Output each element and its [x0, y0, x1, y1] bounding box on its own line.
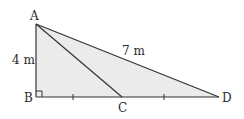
label-b: B — [24, 91, 33, 105]
measure-ab: 4 m — [12, 53, 35, 67]
label-a: A — [29, 9, 39, 23]
label-c: C — [118, 101, 127, 115]
triangle-diagram: A B C D 4 m 7 m — [0, 0, 244, 119]
label-d: D — [222, 91, 232, 105]
measure-ad: 7 m — [122, 44, 145, 58]
